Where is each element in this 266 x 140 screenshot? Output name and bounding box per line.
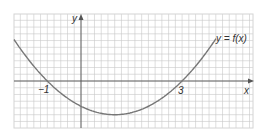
curve-label: y = f(x) — [216, 34, 247, 44]
tick-label-3: 3 — [178, 86, 184, 96]
curve-f-of-x — [14, 39, 216, 115]
axes — [14, 14, 254, 128]
tick-label-neg1: −1 — [38, 85, 49, 95]
y-axis-label: y — [72, 14, 77, 24]
x-axis-label: x — [244, 86, 249, 96]
grid-lines — [14, 14, 253, 128]
graph-plot — [0, 0, 266, 140]
plot-border — [14, 14, 253, 128]
